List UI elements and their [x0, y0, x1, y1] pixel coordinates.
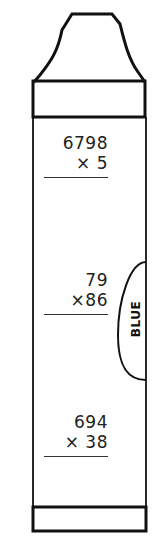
problem-1-answer-line — [44, 177, 108, 178]
problem-2-top: 79 — [38, 270, 108, 290]
crayon-color-label: BLUE — [129, 299, 143, 339]
problem-2-answer-line — [44, 314, 108, 315]
crayon-bottom-band — [33, 507, 146, 531]
crayon-tip — [34, 14, 145, 82]
problem-2: 79 ×86 — [38, 270, 108, 315]
problem-2-bottom: ×86 — [38, 290, 108, 310]
problem-3-bottom: × 38 — [38, 432, 108, 452]
problem-1-top: 6798 — [38, 133, 108, 153]
problem-3-top: 694 — [38, 412, 108, 432]
problem-3-answer-line — [44, 456, 108, 457]
problem-1: 6798 × 5 — [38, 133, 108, 178]
crayon-top-band — [33, 81, 145, 117]
problem-1-bottom: × 5 — [38, 153, 108, 173]
problem-3: 694 × 38 — [38, 412, 108, 457]
